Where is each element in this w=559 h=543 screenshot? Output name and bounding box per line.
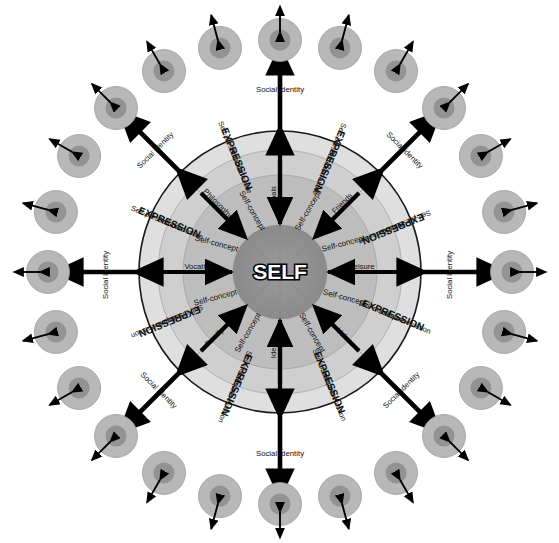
other-person	[375, 42, 418, 93]
other-person	[23, 191, 77, 234]
core-self-label: SELF	[253, 260, 307, 283]
other-person	[483, 311, 537, 354]
person-inner-circle	[502, 262, 523, 283]
other-person	[319, 15, 362, 69]
other-person	[14, 251, 70, 294]
person-inner-circle	[154, 61, 175, 82]
other-person	[483, 191, 537, 234]
diagram-canvas: Goals Friends Leisure Values Ideals Fami…	[0, 0, 559, 543]
social-identity-label-top: Social identity	[256, 85, 304, 94]
self-text: SELF	[253, 260, 307, 283]
spoke-label-ideals: Ideals	[269, 338, 278, 358]
other-person	[423, 415, 469, 461]
social-identity-label-bottom: Social identity	[256, 449, 304, 458]
person-inner-circle	[270, 494, 291, 515]
other-person	[199, 15, 242, 69]
person-inner-circle	[330, 37, 351, 58]
person-inner-circle	[45, 202, 66, 223]
person-inner-circle	[69, 146, 90, 167]
person-inner-circle	[494, 322, 515, 343]
person-inner-circle	[69, 378, 90, 399]
person-inner-circle	[270, 30, 291, 51]
other-person	[199, 475, 242, 529]
other-person	[143, 42, 186, 93]
person-inner-circle	[386, 462, 407, 483]
other-person	[23, 311, 77, 354]
person-inner-circle	[470, 146, 491, 167]
social-identity-label-left: Social identity	[101, 251, 110, 299]
other-person	[459, 135, 510, 178]
person-inner-circle	[210, 486, 231, 507]
person-inner-circle	[386, 61, 407, 82]
person-inner-circle	[330, 486, 351, 507]
spoke-label-goals: Goals	[269, 186, 278, 206]
other-person	[259, 6, 302, 62]
person-inner-circle	[154, 462, 175, 483]
other-person	[491, 251, 547, 294]
other-person	[92, 415, 138, 461]
other-person	[50, 135, 101, 178]
person-inner-circle	[38, 262, 59, 283]
self-social-identity-diagram: Goals Friends Leisure Values Ideals Fami…	[0, 0, 559, 543]
spoke-label-vocation: Vocation	[184, 262, 213, 271]
person-inner-circle	[494, 202, 515, 223]
other-person	[50, 367, 101, 410]
other-person	[319, 475, 362, 529]
person-inner-circle	[210, 37, 231, 58]
other-person	[143, 451, 186, 502]
other-person	[423, 84, 469, 130]
person-inner-circle	[45, 322, 66, 343]
other-person	[92, 84, 138, 130]
person-inner-circle	[470, 378, 491, 399]
other-person	[459, 367, 510, 410]
spoke-label-leisure: Leisure	[350, 262, 375, 271]
other-person	[259, 483, 302, 539]
social-identity-label-right: Social identity	[445, 251, 454, 299]
other-person	[375, 451, 418, 502]
